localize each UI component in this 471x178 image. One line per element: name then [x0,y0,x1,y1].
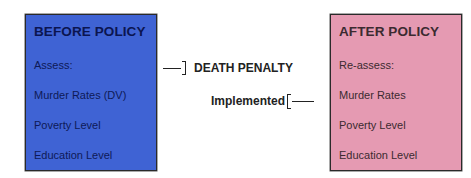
connector-line-right [292,101,314,102]
bracket-left-icon [287,94,291,109]
before-assess-label: Assess: [34,59,73,71]
bracket-right-icon [182,61,186,75]
death-penalty-label: DEATH PENALTY [194,61,293,75]
before-policy-box: BEFORE POLICY Assess: Murder Rates (DV) … [25,14,157,171]
before-policy-title: BEFORE POLICY [34,24,146,39]
after-item-poverty-level: Poverty Level [339,119,406,131]
after-item-murder-rates: Murder Rates [339,89,406,101]
connector-line-left [163,68,181,69]
after-item-education-level: Education Level [339,149,417,161]
after-reassess-label: Re-assess: [339,59,394,71]
implemented-label: Implemented [211,94,285,108]
after-policy-box: AFTER POLICY Re-assess: Murder Rates Pov… [330,14,462,171]
before-item-education-level: Education Level [34,149,112,161]
before-item-murder-rates: Murder Rates (DV) [34,89,126,101]
before-item-poverty-level: Poverty Level [34,119,101,131]
after-policy-title: AFTER POLICY [339,24,439,39]
